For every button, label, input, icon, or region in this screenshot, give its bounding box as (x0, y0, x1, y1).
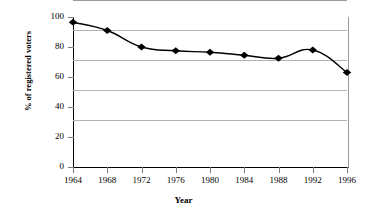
y-axis-label: 40 (30, 102, 64, 111)
x-axis-tick (142, 167, 143, 173)
x-axis-tick (244, 167, 245, 173)
x-axis-tick (210, 167, 211, 173)
voter-turnout-line-chart: % of registered voters 020406080100 1964… (0, 0, 367, 215)
x-axis-tick (73, 167, 74, 173)
y-axis-tick (68, 107, 74, 108)
y-axis-label: 0 (30, 162, 64, 171)
x-axis-tick (176, 167, 177, 173)
y-axis-tick (68, 17, 74, 18)
x-axis-tick (313, 167, 314, 173)
y-axis-tick (68, 137, 74, 138)
x-axis-tick (107, 167, 108, 173)
y-axis-tick (68, 77, 74, 78)
y-axis-label: 60 (30, 72, 64, 81)
y-axis-label: 80 (30, 42, 64, 51)
plot-area (73, 17, 349, 168)
x-axis-title: Year (0, 195, 367, 205)
y-axis-label: 100 (30, 12, 64, 21)
y-axis-tick (68, 47, 74, 48)
y-axis-label: 20 (30, 132, 64, 141)
x-axis-tick (347, 167, 348, 173)
gridline (73, 120, 347, 121)
gridline (73, 90, 347, 91)
gridline (73, 0, 347, 1)
x-axis-label: 1996 (327, 175, 367, 185)
gridline (73, 60, 347, 61)
x-axis-tick (279, 167, 280, 173)
gridline (73, 30, 347, 31)
